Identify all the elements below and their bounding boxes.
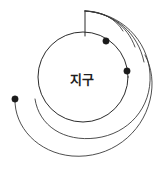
orbit-diagram-canvas: 지구 — [0, 0, 165, 171]
orbit-start-point-left-dot — [12, 96, 18, 102]
trajectory-escape-spiral-path — [15, 55, 152, 156]
earth-label: 지구 — [70, 72, 95, 87]
impact-point-upper-dot — [103, 38, 109, 44]
impact-point-lower-dot — [124, 68, 130, 74]
newton-cannonball-figure: 지구 — [0, 0, 165, 171]
